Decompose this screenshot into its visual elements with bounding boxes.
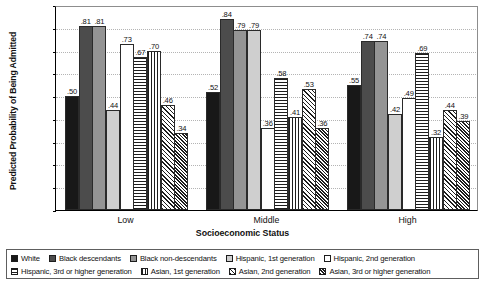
legend-swatch-icon	[324, 255, 331, 262]
bar[interactable]: .36	[261, 128, 275, 210]
bar-chart: Predicted Probability of Being Admitted …	[0, 0, 485, 284]
bar-value-label: .32	[431, 128, 441, 137]
legend-label: White	[21, 254, 40, 263]
bar[interactable]: .79	[233, 30, 247, 210]
bar[interactable]: .81	[92, 26, 106, 211]
bar[interactable]: .69	[415, 53, 429, 210]
legend-swatch-icon	[11, 255, 18, 262]
bar-value-label: .70	[149, 42, 159, 51]
legend-swatch-icon	[49, 255, 56, 262]
bar-group: .55.74.74.42.49.69.32.44.39	[338, 6, 479, 210]
legend-swatch-icon	[226, 255, 233, 262]
bar-value-label: .55	[349, 76, 359, 85]
legend-item[interactable]: Asian, 3rd or higher generation	[319, 267, 430, 276]
x-tick-label: Low	[117, 215, 133, 225]
bar[interactable]: .39	[456, 121, 470, 210]
bar-value-label: .44	[445, 101, 455, 110]
bar[interactable]: .53	[302, 89, 316, 210]
bar-value-label: .39	[458, 112, 468, 121]
bar-value-label: .52	[208, 83, 218, 92]
legend-item[interactable]: Asian, 1st generation	[141, 267, 220, 276]
plot-area: 0.00.10.20.30.40.50.60.70.80.9.50.81.81.…	[55, 6, 478, 211]
bar[interactable]: .42	[388, 114, 402, 210]
legend-swatch-icon	[11, 268, 18, 275]
legend-item[interactable]: Black non-descendants	[130, 254, 217, 263]
bar-value-label: .36	[263, 119, 273, 128]
bar-value-label: .84	[222, 10, 232, 19]
legend-swatch-icon	[141, 268, 148, 275]
legend-swatch-icon	[319, 268, 326, 275]
bar[interactable]: .58	[274, 78, 288, 210]
bar-value-label: .36	[317, 119, 327, 128]
bar-value-label: .81	[81, 17, 91, 26]
bar-value-label: .58	[276, 69, 286, 78]
legend-row-1: WhiteBlack descendantsBlack non-descenda…	[11, 252, 474, 265]
bar-value-label: .67	[135, 48, 145, 57]
bar[interactable]: .52	[206, 92, 220, 210]
legend-item[interactable]: Hispanic, 2nd generation	[324, 254, 415, 263]
bar-group: .50.81.81.44.73.67.70.46.34	[56, 6, 197, 210]
y-axis-title: Predicted Probability of Being Admitted	[8, 6, 18, 216]
bar[interactable]: .73	[120, 44, 134, 210]
bar-value-label: .81	[94, 17, 104, 26]
bar-value-label: .74	[376, 32, 386, 41]
legend-item[interactable]: Asian, 2nd generation	[229, 267, 311, 276]
bar[interactable]: .74	[374, 41, 388, 210]
bar[interactable]: .79	[247, 30, 261, 210]
legend-swatch-icon	[229, 268, 236, 275]
legend-label: Hispanic, 2nd generation	[334, 254, 415, 263]
bar-value-label: .79	[235, 21, 245, 30]
legend-label: Asian, 3rd or higher generation	[329, 267, 430, 276]
bar[interactable]: .44	[106, 110, 120, 210]
bar-value-label: .44	[108, 101, 118, 110]
bar[interactable]: .74	[361, 41, 375, 210]
legend-label: Asian, 1st generation	[151, 267, 220, 276]
bar-value-label: .74	[363, 32, 373, 41]
bar[interactable]: .46	[161, 105, 175, 210]
bar[interactable]: .67	[133, 57, 147, 210]
legend-label: Hispanic, 1st generation	[236, 254, 315, 263]
legend-label: Black descendants	[59, 254, 121, 263]
legend-row-2: Hispanic, 3rd or higher generationAsian,…	[11, 265, 474, 278]
bar[interactable]: .34	[174, 133, 188, 210]
legend-item[interactable]: Black descendants	[49, 254, 121, 263]
legend-label: Asian, 2nd generation	[239, 267, 311, 276]
legend-item[interactable]: Hispanic, 3rd or higher generation	[11, 267, 132, 276]
y-tick-mark	[53, 211, 56, 212]
chart-legend: WhiteBlack descendantsBlack non-descenda…	[6, 249, 479, 279]
bar[interactable]: .70	[147, 51, 161, 210]
legend-item[interactable]: White	[11, 254, 40, 263]
bar[interactable]: .55	[347, 85, 361, 210]
x-tick-label: Middle	[254, 215, 280, 225]
bar[interactable]: .84	[220, 19, 234, 210]
bar-group: .52.84.79.79.36.58.41.53.36	[197, 6, 338, 210]
bar[interactable]: .36	[315, 128, 329, 210]
x-axis-title: Socioeconomic Status	[0, 228, 485, 238]
bar-value-label: .41	[290, 108, 300, 117]
bar-value-label: .49	[404, 89, 414, 98]
bar[interactable]: .49	[402, 98, 416, 210]
bar[interactable]: .81	[79, 26, 93, 211]
bar[interactable]: .41	[288, 117, 302, 210]
legend-item[interactable]: Hispanic, 1st generation	[226, 254, 315, 263]
legend-swatch-icon	[130, 255, 137, 262]
bar[interactable]: .50	[65, 96, 79, 210]
x-tick-label: High	[398, 215, 416, 225]
bar-value-label: .42	[390, 105, 400, 114]
bar-value-label: .69	[417, 44, 427, 53]
bar-value-label: .79	[249, 21, 259, 30]
bar[interactable]: .32	[429, 137, 443, 210]
bar-value-label: .53	[304, 80, 314, 89]
bar-value-label: .50	[67, 87, 77, 96]
bar-value-label: .34	[176, 124, 186, 133]
legend-label: Black non-descendants	[140, 254, 217, 263]
bar[interactable]: .44	[443, 110, 457, 210]
legend-label: Hispanic, 3rd or higher generation	[21, 267, 132, 276]
bar-value-label: .73	[122, 35, 132, 44]
bar-value-label: .46	[163, 96, 173, 105]
